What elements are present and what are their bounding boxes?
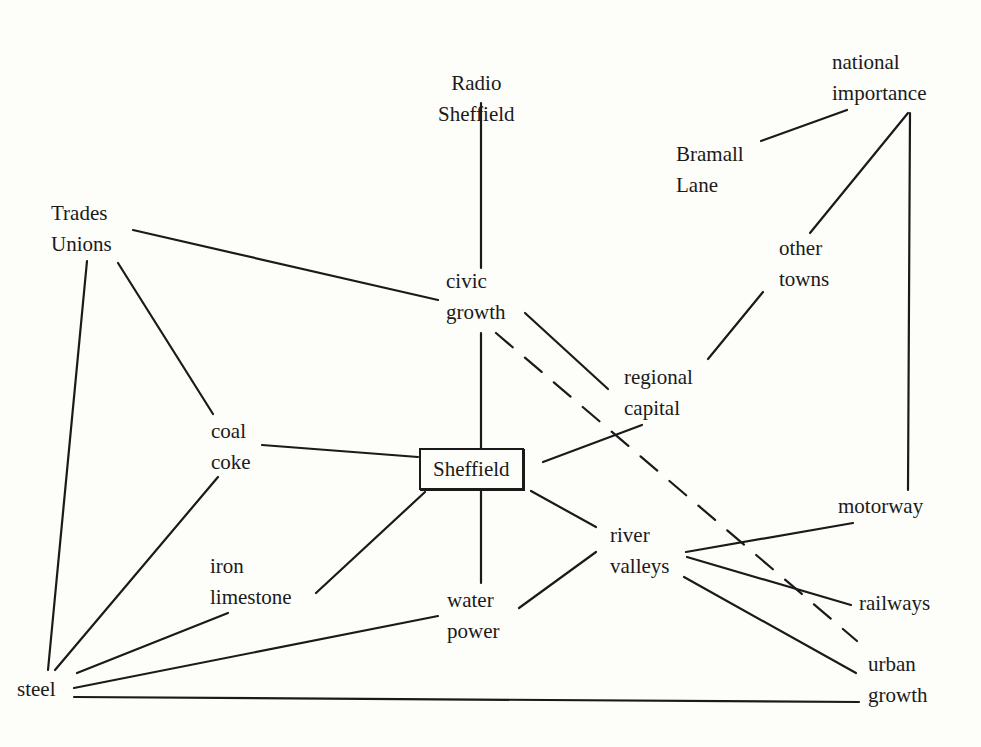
node-trades-unions: Trades Unions [51, 198, 112, 260]
node-label-line: growth [446, 297, 506, 328]
node-label-line: towns [779, 264, 829, 295]
node-label-line: steel [17, 674, 55, 705]
edge-coal-coke-to-sheffield [262, 445, 418, 457]
edge-other-towns-to-national-importance [810, 113, 908, 233]
node-label-line: Radio [438, 68, 515, 99]
edge-trades-unions-to-civic-growth [133, 230, 438, 300]
node-regional-capital: regional capital [624, 362, 693, 424]
edge-trades-unions-to-coal-coke [118, 263, 213, 414]
node-label-line: limestone [210, 582, 292, 613]
edge-coal-coke-to-steel [55, 477, 218, 670]
edge-water-power-to-river-valleys [519, 552, 596, 608]
node-label-line: river [610, 520, 669, 551]
node-label-line: urban [868, 649, 928, 680]
edge-river-valleys-to-railways [687, 557, 851, 605]
edge-civic-growth-to-regional-capital [525, 313, 608, 389]
node-water-power: water power [447, 585, 499, 647]
node-label-line: coke [211, 447, 251, 478]
node-label-line: capital [624, 393, 693, 424]
diagram-canvas: Radio Sheffield national importance Bram… [0, 0, 981, 747]
node-label-line: coal [211, 416, 251, 447]
edge-national-importance-to-motorway [908, 113, 910, 490]
node-steel: steel [17, 674, 55, 705]
node-label-line: importance [832, 78, 926, 109]
node-iron-limestone: iron limestone [210, 551, 292, 613]
node-coal-coke: coal coke [211, 416, 251, 478]
node-label-line: valleys [610, 551, 669, 582]
node-label-line: railways [859, 588, 930, 619]
node-urban-growth: urban growth [868, 649, 928, 711]
edge-iron-limestone-to-steel [77, 613, 228, 673]
node-river-valleys: river valleys [610, 520, 669, 582]
node-bramall-lane: Bramall Lane [676, 139, 744, 201]
node-national-importance: national importance [832, 47, 926, 109]
node-label-line: Bramall [676, 139, 744, 170]
node-label-line: growth [868, 680, 928, 711]
node-label-line: motorway [838, 491, 923, 522]
node-radio-sheffield: Radio Sheffield [438, 68, 515, 130]
node-label-line: Lane [676, 170, 744, 201]
node-label-line: Trades [51, 198, 112, 229]
node-label-line: power [447, 616, 499, 647]
node-label-line: Unions [51, 229, 112, 260]
node-motorway: motorway [838, 491, 923, 522]
node-label-line: other [779, 233, 829, 264]
node-label-line: Sheffield [438, 99, 515, 130]
edge-sheffield-to-river-valleys [531, 491, 596, 527]
node-label-line: water [447, 585, 499, 616]
edge-sheffield-to-iron-limestone [316, 492, 425, 593]
edge-trades-unions-to-steel [48, 261, 87, 670]
edge-regional-capital-to-other-towns [708, 292, 763, 359]
node-sheffield: Sheffield [419, 448, 524, 490]
node-label-line: civic [446, 266, 506, 297]
node-label-line: regional [624, 362, 693, 393]
edge-river-valleys-to-urban-growth [684, 577, 856, 673]
node-label-line: national [832, 47, 926, 78]
node-label-line: Sheffield [433, 453, 510, 485]
node-railways: railways [859, 588, 930, 619]
node-label-line: iron [210, 551, 292, 582]
node-other-towns: other towns [779, 233, 829, 295]
edge-river-valleys-to-motorway [686, 523, 853, 552]
node-civic-growth: civic growth [446, 266, 506, 328]
edge-national-importance-to-bramall-lane [761, 110, 847, 141]
edge-steel-to-urban-growth [74, 697, 859, 702]
